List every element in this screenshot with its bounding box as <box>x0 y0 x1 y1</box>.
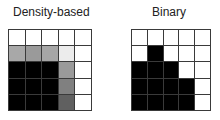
grid-cell <box>132 79 148 95</box>
grid-cell <box>148 95 164 111</box>
grid-cell <box>9 79 26 95</box>
grid-cell <box>179 46 195 62</box>
grid-cell <box>148 46 164 62</box>
grid-cell <box>26 30 43 46</box>
grid-cell <box>75 30 92 46</box>
binary-grid <box>131 29 211 111</box>
grid-cell <box>132 46 148 62</box>
grid-cell <box>148 79 164 95</box>
grid-cell <box>195 79 211 95</box>
grid-cell <box>132 30 148 46</box>
grid-cell <box>75 46 92 62</box>
grid-cell <box>148 30 164 46</box>
density-based-grid <box>8 29 92 111</box>
grid-cell <box>26 95 43 111</box>
grid-cell <box>59 46 76 62</box>
grid-cell <box>179 79 195 95</box>
grid-cell <box>75 62 92 78</box>
grid-cell <box>9 95 26 111</box>
grid-cell <box>195 46 211 62</box>
grid-cell <box>42 79 59 95</box>
grid-cell <box>179 62 195 78</box>
grid-cell <box>195 62 211 78</box>
grid-cell <box>9 46 26 62</box>
grid-cell <box>42 46 59 62</box>
grid-cell <box>59 30 76 46</box>
grid-cell <box>26 62 43 78</box>
grid-cell <box>148 62 164 78</box>
grid-cell <box>75 95 92 111</box>
grid-cell <box>42 62 59 78</box>
grid-cell <box>26 46 43 62</box>
grid-cell <box>195 95 211 111</box>
density-based-title: Density-based <box>13 5 90 19</box>
grid-cell <box>195 30 211 46</box>
grid-cell <box>164 46 180 62</box>
grid-cell <box>164 79 180 95</box>
grid-cell <box>179 30 195 46</box>
grid-cell <box>9 30 26 46</box>
grid-cell <box>59 62 76 78</box>
grid-cell <box>42 30 59 46</box>
grid-cell <box>59 79 76 95</box>
grid-cell <box>75 79 92 95</box>
grid-cell <box>179 95 195 111</box>
grid-cell <box>164 30 180 46</box>
grid-cell <box>132 95 148 111</box>
binary-title: Binary <box>152 5 186 19</box>
grid-cell <box>164 62 180 78</box>
grid-cell <box>59 95 76 111</box>
grid-cell <box>9 62 26 78</box>
grid-cell <box>42 95 59 111</box>
grid-cell <box>132 62 148 78</box>
grid-cell <box>164 95 180 111</box>
grid-cell <box>26 79 43 95</box>
